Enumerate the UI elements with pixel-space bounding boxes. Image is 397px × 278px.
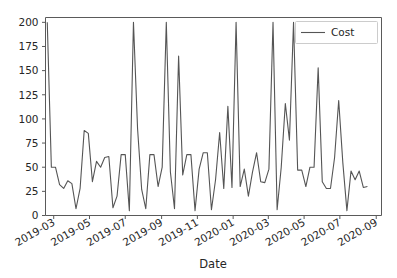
y-tick-label: 100	[18, 113, 38, 125]
y-tick-label: 75	[25, 137, 38, 149]
y-tick-label: 175	[18, 40, 38, 52]
x-tick-label: 2020-07	[299, 216, 343, 248]
y-tick-label: 150	[18, 64, 38, 76]
y-tick-label: 25	[25, 185, 38, 197]
x-tick-label: 2020-03	[227, 216, 271, 248]
x-tick-label: 2020-09	[335, 216, 379, 248]
plot-area-background	[45, 17, 382, 216]
y-tick-label: 50	[25, 161, 38, 173]
x-axis-ticks: 2019-032019-052019-072019-092019-112020-…	[13, 216, 380, 249]
line-chart-canvas: 0255075100125150175200 2019-032019-05201…	[0, 0, 397, 278]
y-tick-label: 200	[18, 16, 38, 28]
y-tick-label: 125	[18, 89, 38, 101]
y-tick-label: 0	[32, 209, 39, 221]
matplotlib-figure: 0255075100125150175200 2019-032019-05201…	[0, 0, 397, 278]
x-tick-label: 2019-05	[48, 216, 92, 248]
legend-label-cost: Cost	[331, 26, 354, 38]
x-tick-label: 2019-09	[121, 216, 165, 248]
chart-legend[interactable]: Cost	[296, 22, 378, 44]
x-tick-label: 2019-07	[84, 216, 128, 248]
x-tick-label: 2019-11	[156, 216, 200, 248]
y-axis-ticks: 0255075100125150175200	[18, 16, 45, 221]
x-axis-title: Date	[199, 257, 227, 271]
x-tick-label: 2020-05	[263, 216, 307, 248]
